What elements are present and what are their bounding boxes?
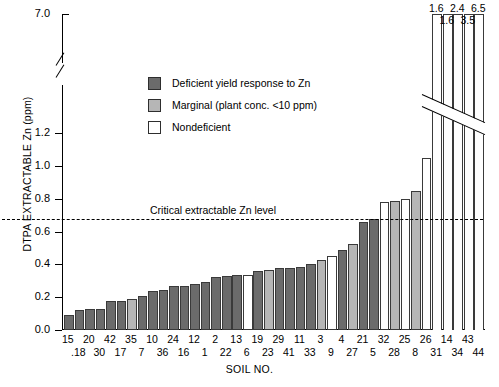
bar <box>348 244 358 330</box>
bar <box>306 264 316 330</box>
y-tick-label: 0.4 <box>4 258 50 269</box>
y-tick-label: 7.0 <box>4 8 50 19</box>
y-tick-label: 0.0 <box>4 324 50 335</box>
bar <box>464 14 474 330</box>
x-tick-label: 43 <box>455 333 481 345</box>
bar <box>443 14 453 330</box>
critical-level-label: Critical extractable Zn level <box>150 204 276 216</box>
y-tick-label: 0.8 <box>4 193 50 204</box>
bar <box>159 290 169 330</box>
bar <box>253 271 263 330</box>
y-tick-mark <box>55 232 62 233</box>
legend-label: Marginal (plant conc. <10 ppm) <box>172 99 317 111</box>
overflow-value-label: 6.5 <box>465 2 491 14</box>
y-tick-mark <box>55 133 62 134</box>
legend-label: Deficient yield response to Zn <box>172 77 310 89</box>
legend: Deficient yield response to ZnMarginal (… <box>148 72 317 138</box>
bar <box>75 310 85 330</box>
bar <box>432 14 442 330</box>
chart-root: DTPA EXTRACTABLE Zn (ppm) 0.00.20.40.60.… <box>0 0 499 387</box>
legend-label: Nondeficient <box>172 121 230 133</box>
bar <box>380 202 390 330</box>
bar <box>190 284 200 330</box>
bar <box>369 219 379 330</box>
bar <box>296 267 306 330</box>
legend-swatch-deficient <box>148 77 161 90</box>
y-axis-title: DTPA EXTRACTABLE Zn (ppm) <box>21 79 33 269</box>
y-tick-label: 0.2 <box>4 291 50 302</box>
y-tick-mark <box>55 199 62 200</box>
legend-swatch-marginal <box>148 99 161 112</box>
bar <box>474 14 484 330</box>
bar <box>148 291 158 330</box>
legend-swatch-nondeficient <box>148 121 161 134</box>
legend-item: Marginal (plant conc. <10 ppm) <box>148 94 317 116</box>
bar <box>211 277 221 330</box>
bar <box>96 309 106 330</box>
bar <box>169 286 179 330</box>
bar <box>127 299 137 330</box>
y-tick-mark <box>55 264 62 265</box>
bar <box>390 201 400 330</box>
y-tick-label: 1.0 <box>4 160 50 171</box>
bar <box>232 275 242 330</box>
bar <box>243 275 253 330</box>
bar <box>85 309 95 330</box>
bar <box>327 256 337 330</box>
bar <box>422 158 432 330</box>
plot-area <box>62 14 485 330</box>
y-tick-mark <box>55 297 62 298</box>
y-tick-mark <box>55 330 62 331</box>
bar <box>106 301 116 330</box>
bar <box>180 286 190 330</box>
axis-top-stub <box>62 14 69 15</box>
bar <box>264 270 274 330</box>
bar <box>64 315 74 330</box>
bar <box>275 268 285 330</box>
x-axis-title: SOIL NO. <box>0 363 499 375</box>
legend-item: Deficient yield response to Zn <box>148 72 317 94</box>
bar <box>117 301 127 330</box>
legend-item: Nondeficient <box>148 116 317 138</box>
y-tick-label: 0.6 <box>4 226 50 237</box>
y-tick-label: 1.2 <box>4 127 50 138</box>
bar <box>201 282 211 330</box>
y-tick-mark <box>55 166 62 167</box>
bar <box>411 191 421 330</box>
bar <box>338 250 348 330</box>
bar <box>453 14 463 330</box>
x-tick-label: 44 <box>465 346 491 358</box>
overflow-value-label: 3.5 <box>455 14 481 26</box>
bar <box>138 296 148 330</box>
bar <box>222 276 232 330</box>
bar <box>359 222 369 330</box>
bar <box>317 260 327 330</box>
critical-level-line <box>2 219 483 220</box>
bar <box>285 268 295 330</box>
